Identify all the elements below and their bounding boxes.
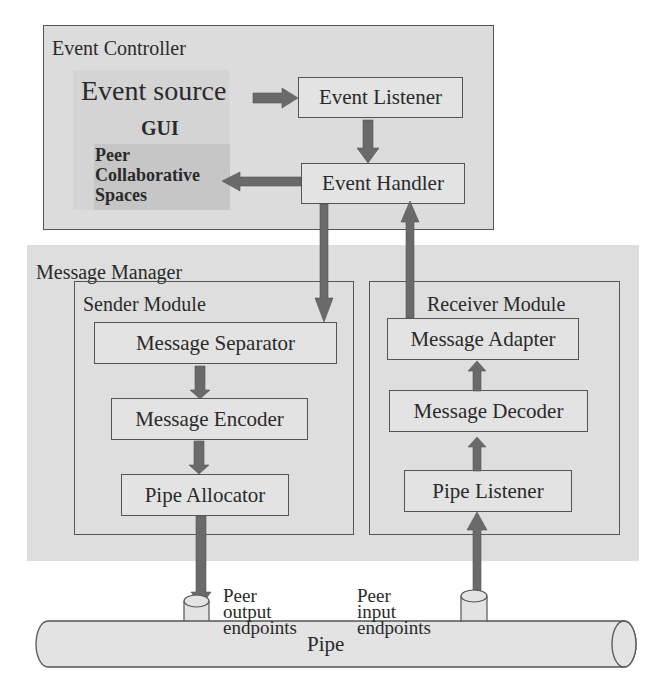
arrow-source-to-listener <box>253 88 298 108</box>
arrow-listener-to-handler <box>357 120 379 163</box>
arrow-adapter-to-handler <box>401 201 419 318</box>
arrow-separator-to-encoder <box>190 366 210 399</box>
arrow-listener-to-decoder <box>468 437 486 471</box>
arrow-decoder-to-adapter <box>468 361 486 391</box>
arrow-handler-to-separator <box>315 204 333 322</box>
input-endpoint-cylinder <box>461 590 487 625</box>
input-endpoints-label: Peer input endpoints <box>357 588 431 636</box>
arrow-endpoint-to-listener <box>467 512 487 602</box>
output-endpoints-label: Peer output endpoints <box>223 588 297 636</box>
arrow-allocator-to-endpoint <box>191 516 211 606</box>
arrow-handler-to-gui <box>222 172 301 191</box>
pipe-label: Pipe <box>307 634 344 655</box>
diagram-graphics <box>0 0 665 695</box>
arrow-encoder-to-allocator <box>189 441 209 474</box>
